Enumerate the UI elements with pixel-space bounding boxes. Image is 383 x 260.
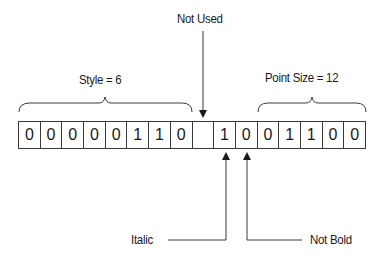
not-bold-arrow-head — [243, 152, 251, 160]
bit-cell: 1 — [149, 122, 171, 148]
italic-label: Italic — [131, 233, 153, 246]
bit-cell: 0 — [41, 122, 63, 148]
point-size-group-brace — [258, 97, 366, 112]
bit-cell: 0 — [323, 122, 345, 148]
style-group-brace — [19, 97, 192, 112]
bit-cell: 1 — [127, 122, 149, 148]
point-size-group-label: Point Size = 12 — [265, 71, 338, 84]
bit-cell-italic: 1 — [214, 122, 236, 148]
bit-cell: 0 — [62, 122, 84, 148]
bit-cell: 0 — [171, 122, 193, 148]
bit-cell: 0 — [19, 122, 41, 148]
bit-cell: 1 — [279, 122, 301, 148]
bit-cell-bold: 0 — [236, 122, 258, 148]
style-group-label: Style = 6 — [79, 73, 121, 86]
bit-cell: 1 — [301, 122, 323, 148]
bit-cell: 0 — [258, 122, 280, 148]
bit-cell: 0 — [84, 122, 106, 148]
not-used-arrow-head — [199, 110, 207, 118]
not-bold-label: Not Bold — [310, 233, 352, 246]
bit-cell-not-used — [193, 122, 215, 148]
bit-cell: 0 — [344, 122, 365, 148]
italic-arrow-head — [222, 152, 230, 160]
not-used-label: Not Used — [177, 12, 223, 25]
bit-field-row: 0 0 0 0 0 1 1 0 1 0 0 1 1 0 0 — [18, 121, 366, 149]
bit-cell: 0 — [106, 122, 128, 148]
